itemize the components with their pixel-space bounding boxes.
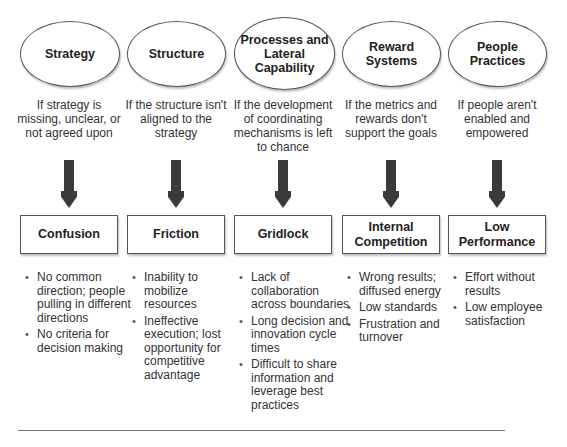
outcome-label: Confusion [38,227,100,242]
column-people-practices: People Practices If people aren't enable… [447,0,553,447]
condition-text: If the structure isn't aligned to the st… [120,98,232,140]
column-reward-systems: Reward Systems If the metrics and reward… [341,0,447,447]
factor-ellipse: Strategy [20,21,120,87]
list-item: Long decision and innovation cycle times [251,315,351,356]
condition-text: If the metrics and rewards don't support… [335,98,447,140]
list-item: Wrong results; diffused energy [359,271,459,298]
factor-label: Strategy [45,47,95,61]
list-item: Frustration and turnover [359,318,459,345]
list-item: No criteria for decision making [37,328,137,355]
condition-text: If people aren't enabled and empowered [441,98,553,140]
outcome-box: Gridlock [234,215,332,254]
list-item: Effort without results [465,271,565,298]
list-item: Difficult to share information and lever… [251,358,351,412]
down-arrow-icon [489,160,505,208]
factor-ellipse: People Practices [448,21,547,87]
factor-label: People Practices [449,40,546,68]
factor-label: Reward Systems [343,40,440,68]
outcome-label: Friction [153,227,199,242]
factor-label: Processes and Lateral Capability [235,33,334,75]
effects-list: No common direction; people pulling in d… [23,271,137,358]
column-structure: Structure If the structure isn't aligned… [126,0,232,447]
effects-list: Lack of collaboration across boundaries … [237,271,351,415]
effects-list: Wrong results; diffused energy Low stand… [345,271,459,348]
down-arrow-icon [168,160,184,208]
factor-ellipse: Processes and Lateral Capability [234,17,335,90]
outcome-label: Internal Competition [343,220,439,250]
outcome-box: Low Performance [448,215,546,254]
list-item: Low standards [359,301,459,315]
list-item: No common direction; people pulling in d… [37,271,137,325]
column-strategy: Strategy If strategy is missing, unclear… [19,0,125,447]
outcome-box: Confusion [20,215,118,254]
effects-list: Inability to mobilize resources Ineffect… [130,271,244,385]
factor-ellipse: Reward Systems [342,21,441,87]
list-item: Ineffective execution; lost opportunity … [144,315,244,383]
down-arrow-icon [61,160,77,208]
effects-list: Effort without results Low employee sati… [451,271,565,331]
column-processes: Processes and Lateral Capability If the … [233,0,339,447]
down-arrow-icon [383,160,399,208]
factor-ellipse: Structure [127,21,226,87]
outcome-label: Low Performance [449,220,545,250]
outcome-box: Friction [127,215,225,254]
list-item: Inability to mobilize resources [144,271,244,312]
outcome-box: Internal Competition [342,215,440,254]
list-item: Lack of collaboration across boundaries [251,271,351,312]
down-arrow-icon [275,160,291,208]
condition-text: If strategy is missing, unclear, or not … [13,98,125,140]
factor-label: Structure [149,47,205,61]
outcome-label: Gridlock [258,227,309,242]
list-item: Low employee satisfaction [465,301,565,328]
bottom-divider [18,430,505,431]
condition-text: If the development of coordinating mecha… [227,98,339,154]
